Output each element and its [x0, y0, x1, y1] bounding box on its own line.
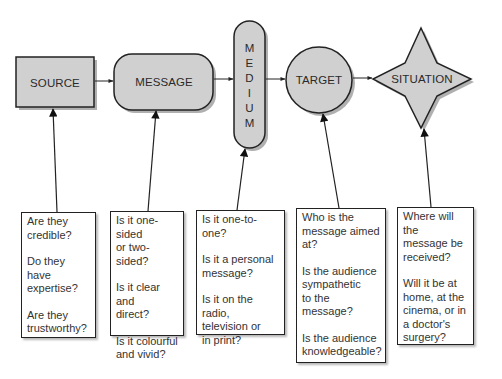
arrow-questions-to-medium — [237, 149, 245, 210]
questions-situation: Where will the message be received? Will… — [397, 207, 474, 345]
question: Where will the message be received? — [403, 210, 469, 264]
question: Are they trustworthy? — [27, 309, 91, 336]
question: Are they credible? — [27, 215, 91, 242]
question: Is the audience knowledgeable? — [302, 332, 381, 359]
question: Is it a personal message? — [202, 253, 280, 280]
questions-medium: Is it one-to-one? Is it a personal messa… — [196, 210, 285, 335]
question: Will it be at home, at the cinema, or in… — [403, 277, 469, 345]
node-message: MESSAGE — [114, 54, 216, 113]
question: Do they have expertise? — [27, 255, 91, 296]
medium-letter-4: I — [248, 87, 251, 99]
medium-letter-6: M — [245, 117, 255, 129]
question: Is it on the radio, television or in pri… — [202, 293, 280, 347]
node-medium: M E D I U M — [234, 21, 268, 151]
situation-label: SITUATION — [391, 73, 452, 85]
questions-message: Is it one-sided or two-sided? Is it clea… — [110, 211, 184, 336]
questions-source: Are they credible? Do they have expertis… — [21, 212, 96, 338]
target-label: TARGET — [296, 74, 342, 86]
question: Is the audience sympathetic to the messa… — [302, 265, 381, 319]
questions-target: Who is the message aimed at? Is the audi… — [296, 208, 386, 363]
question: Is it clear and direct? — [116, 281, 179, 322]
question: Is it one-to-one? — [202, 213, 280, 240]
arrow-questions-to-source — [53, 109, 57, 212]
medium-letter-2: E — [246, 57, 254, 69]
node-source: SOURCE — [16, 57, 97, 110]
question: Is it one-sided or two-sided? — [116, 214, 179, 268]
question: Who is the message aimed at? — [302, 211, 381, 252]
medium-letter-1: M — [245, 42, 255, 54]
node-situation: SITUATION — [373, 28, 474, 131]
question: Is it colourful and vivid? — [116, 335, 179, 362]
source-label: SOURCE — [30, 77, 80, 89]
medium-letter-5: U — [245, 102, 253, 114]
arrow-questions-to-target — [323, 114, 339, 208]
arrow-questions-to-message — [148, 111, 156, 211]
medium-letter-3: D — [245, 72, 253, 84]
arrow-questions-to-situation — [424, 129, 431, 207]
node-target: TARGET — [286, 47, 355, 116]
message-label: MESSAGE — [135, 76, 193, 88]
